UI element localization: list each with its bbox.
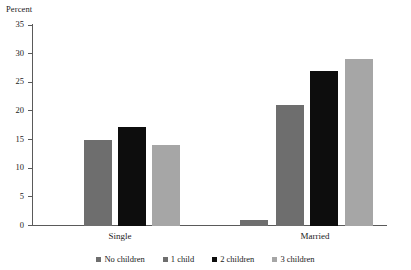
legend-label: 1 child <box>171 255 194 264</box>
bar <box>276 105 304 226</box>
bar <box>310 71 338 226</box>
legend-swatch-icon <box>96 257 101 262</box>
legend-label: 2 children <box>220 255 254 264</box>
bar <box>345 59 373 226</box>
legend-label: No children <box>104 255 144 264</box>
x-axis-category-label: Married <box>275 231 355 241</box>
legend-item[interactable]: 1 child <box>163 255 194 264</box>
legend-item[interactable]: 3 children <box>272 255 314 264</box>
bar <box>152 145 180 226</box>
legend-label: 3 children <box>280 255 314 264</box>
bar <box>240 220 268 226</box>
legend-swatch-icon <box>163 257 168 262</box>
legend-swatch-icon <box>272 257 277 262</box>
chart-legend: No children1 child2 children3 children <box>0 252 411 266</box>
legend-item[interactable]: 2 children <box>212 255 254 264</box>
x-axis-category-label: Single <box>80 231 160 241</box>
bars-layer <box>0 0 411 226</box>
legend-swatch-icon <box>212 257 217 262</box>
legend-item[interactable]: No children <box>96 255 144 264</box>
bar-chart: Percent 05101520253035 SingleMarried No … <box>0 0 411 270</box>
bar <box>84 140 112 227</box>
bar <box>118 127 146 226</box>
plot-area: 05101520253035 SingleMarried <box>0 0 411 270</box>
